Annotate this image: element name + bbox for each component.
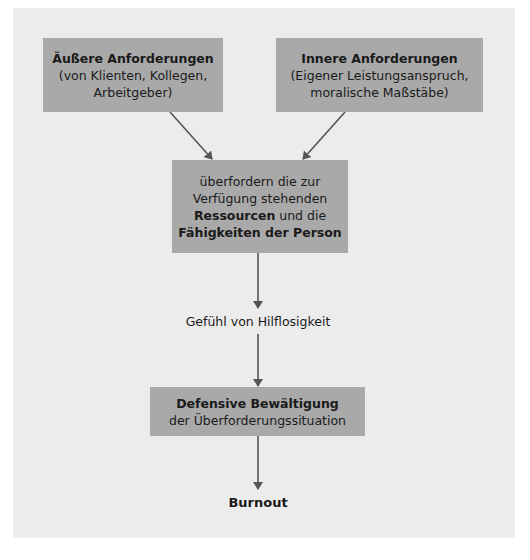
internal-demands-box: Innere Anforderungen (Eigener Leistungsa… — [276, 38, 483, 112]
internal-demands-title: Innere Anforderungen — [301, 50, 457, 67]
burnout-label: Burnout — [208, 494, 308, 511]
external-demands-box: Äußere Anforderungen (von Klienten, Koll… — [43, 38, 223, 112]
overload-resources: Ressourcen — [194, 208, 275, 223]
overload-abilities: Fähigkeiten der Person — [178, 224, 342, 241]
defensive-coping-title: Defensive Bewältigung — [176, 395, 339, 412]
overload-line-1: überfordern die zur — [200, 173, 321, 190]
external-demands-detail-2: Arbeitgeber) — [94, 84, 173, 101]
overload-box: überfordern die zur Verfügung stehenden … — [172, 160, 348, 253]
arrow-internal-to-overload — [303, 112, 345, 159]
arrow-external-to-overload — [170, 112, 212, 159]
overload-line-3: Ressourcen und die — [194, 207, 326, 224]
defensive-coping-box: Defensive Bewältigung der Überforderungs… — [150, 387, 365, 436]
helplessness-label: Gefühl von Hilflosigkeit — [158, 313, 358, 330]
external-demands-detail-1: (von Klienten, Kollegen, — [59, 67, 207, 84]
overload-line-2: Verfügung stehenden — [193, 190, 328, 207]
internal-demands-detail-1: (Eigener Leistungsanspruch, — [290, 67, 468, 84]
external-demands-title: Äußere Anforderungen — [52, 50, 214, 67]
defensive-coping-detail: der Überforderungssituation — [169, 412, 346, 429]
internal-demands-detail-2: moralische Maßstäbe) — [310, 84, 448, 101]
overload-line-3-rest: und die — [275, 208, 326, 223]
